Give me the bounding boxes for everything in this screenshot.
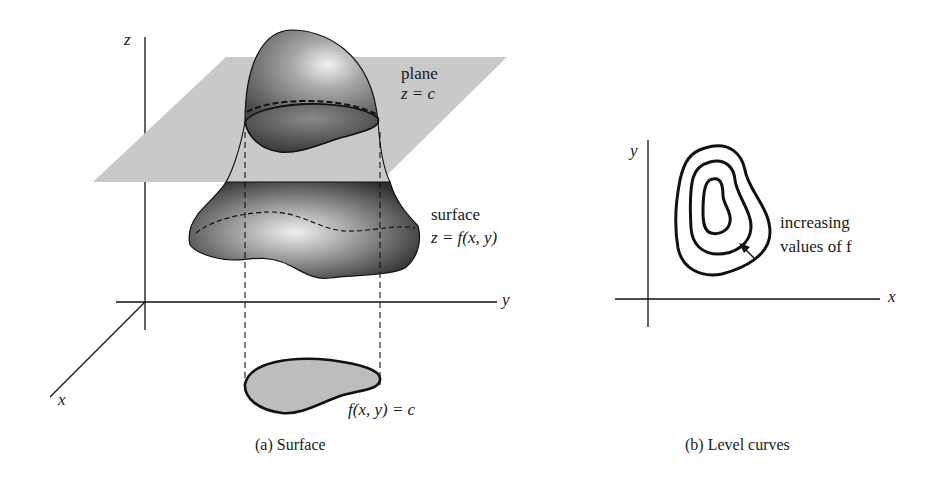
level-curve-equation: f(x, y) = c xyxy=(348,400,415,419)
b-y-axis-label: y xyxy=(630,141,638,160)
b-x-axis-label: x xyxy=(888,287,896,306)
caption-a: (a) Surface xyxy=(255,436,326,454)
z-axis-label: z xyxy=(124,30,131,49)
surface-lower-body xyxy=(189,182,419,278)
x-axis xyxy=(50,302,145,397)
surface-label: surface xyxy=(431,205,480,224)
contour-middle xyxy=(690,161,751,254)
surface-equation: z = f(x, y) xyxy=(431,228,497,247)
annotation-increasing: increasing xyxy=(780,213,850,232)
arrow-icon xyxy=(739,243,754,258)
annotation-values-of-f: values of f xyxy=(780,237,852,256)
caption-b: (b) Level curves xyxy=(685,436,790,454)
plane-equation: z = c xyxy=(401,84,435,103)
contour-inner xyxy=(703,179,730,234)
x-axis-label: x xyxy=(58,390,66,409)
plane-label: plane xyxy=(401,64,438,83)
panel-b-level-curves xyxy=(615,140,880,327)
y-axis-label: y xyxy=(502,290,510,309)
